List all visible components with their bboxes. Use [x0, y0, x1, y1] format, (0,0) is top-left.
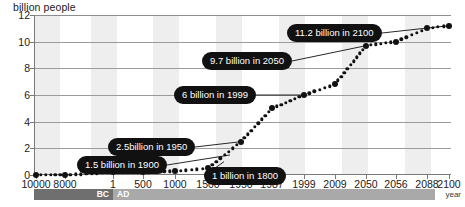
annotation-callout: 9.7 billion in 2050: [202, 52, 292, 70]
x-tick-mark: [143, 175, 144, 179]
x-tick-mark: [113, 175, 114, 179]
x-tick-mark: [427, 175, 428, 179]
x-tick-mark: [304, 175, 305, 179]
y-tick-label: 10: [4, 36, 30, 48]
chart-canvas: billion people 024681012 100008000150010…: [0, 0, 465, 207]
y-tick-label: 8: [4, 62, 30, 74]
era-segment-ad: AD: [113, 189, 435, 200]
x-tick-label: 2100: [437, 178, 460, 190]
x-tick-mark: [449, 175, 450, 179]
x-tick-mark: [335, 175, 336, 179]
annotation-callout: 11.2 billion in 2100: [287, 24, 382, 42]
x-axis-title: year: [445, 190, 461, 199]
y-tick-label: 12: [4, 9, 30, 21]
x-tick-mark: [396, 175, 397, 179]
plot-area: 024681012 100008000150010001500195019871…: [34, 15, 451, 175]
annotation-callout: 2.5billion in 1950: [108, 138, 195, 156]
era-segment-bc: BC: [34, 189, 113, 200]
annotation-callout: 1 billion in 1800: [204, 167, 286, 185]
era-bar: BCAD: [34, 189, 435, 200]
x-tick-mark: [366, 175, 367, 179]
y-tick-label: 6: [4, 89, 30, 101]
x-tick-mark: [175, 175, 176, 179]
annotation-callout: 6 billion in 1999: [174, 86, 256, 104]
y-tick-label: 4: [4, 116, 30, 128]
annotation-callout: 1.5 billion in 1900: [77, 156, 167, 174]
y-tick-label: 2: [4, 142, 30, 154]
